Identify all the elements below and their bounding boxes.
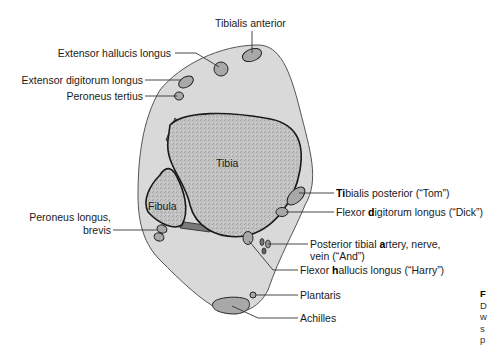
posterior-tibial-artery [260,239,264,246]
label-text: rtery, nerve, [385,238,440,250]
mnemonic-letter-t: Ti [336,187,345,199]
caption-title-fragment: F [480,288,487,300]
label-achilles: Achilles [300,312,336,324]
label-flexor-hallucis-longus: Flexor hallucis longus (“Harry”) [300,264,444,276]
label-tibialis-anterior: Tibialis anterior [215,17,286,29]
label-text: allucis longus (“Harry”) [339,264,445,276]
extensor-hallucis-longus-tendon [214,62,228,76]
label-text: bialis posterior (“Tom”) [345,187,449,199]
caption-line-fragment: D [480,300,487,312]
posterior-tibial-vein [262,248,266,254]
caption-line-fragment: p [480,334,487,346]
label-peroneus-brevis: brevis [0,224,111,236]
label-text: vein (“And”) [310,250,365,262]
label-plantaris: Plantaris [300,289,341,301]
label-peroneus-longus: Peroneus longus, [0,211,111,223]
label-text: Flexor [336,206,368,218]
label-text: Posterior tibial [310,238,379,250]
label-posterior-tibial-neurovascular: Posterior tibial artery, nerve, vein (“A… [310,238,441,262]
caption-line-fragment: w [480,311,487,323]
flexor-hallucis-longus-tendon [243,232,253,245]
caption-line-fragment: s [480,323,487,335]
label-tibialis-posterior: Tibialis posterior (“Tom”) [336,187,450,199]
label-extensor-digitorum-longus: Extensor digitorum longus [0,74,143,86]
label-fibula: Fibula [148,200,177,212]
label-extensor-hallucis-longus: Extensor hallucis longus [0,47,171,59]
figure-caption-fragment: F D w s p [480,288,487,346]
label-peroneus-tertius: Peroneus tertius [0,90,143,102]
label-flexor-digitorum-longus: Flexor digitorum longus (“Dick”) [336,206,483,218]
label-tibia: Tibia [216,157,238,169]
plantaris-tendon [250,292,256,298]
label-text: Flexor [300,264,332,276]
label-text: igitorum longus (“Dick”) [375,206,484,218]
